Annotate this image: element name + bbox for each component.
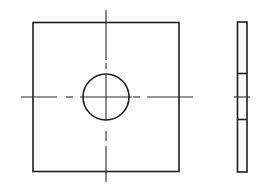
side-view: [234, 22, 250, 172]
washer-technical-drawing: [0, 0, 275, 190]
front-view: [21, 10, 193, 182]
